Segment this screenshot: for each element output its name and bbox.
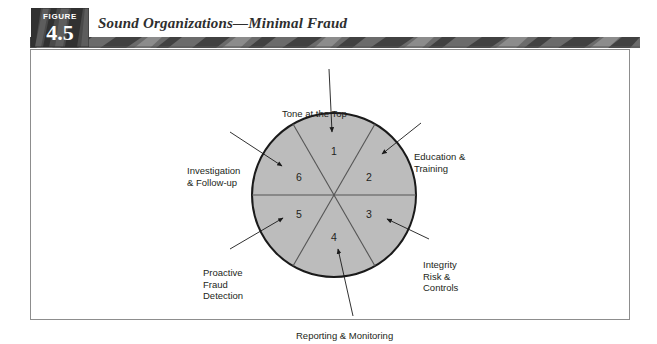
header-decorative-band: [30, 37, 640, 48]
header-band-texture: [30, 37, 640, 48]
page-title: Sound Organizations—Minimal Fraud: [98, 15, 347, 32]
slice-number-4: 4: [331, 231, 337, 243]
pie-slices: [252, 113, 416, 277]
pie-diagram: 1 2 3 4 5 6 Tone at the Top Education & …: [30, 49, 630, 320]
label-tone-at-the-top: Tone at the Top: [282, 108, 347, 120]
pie-diagram-svg: 1 2 3 4 5 6: [30, 49, 630, 320]
figure-tab-number: 4.5: [31, 21, 89, 45]
slice-number-5: 5: [296, 208, 302, 220]
label-education-training: Education & Training: [414, 151, 465, 174]
slice-number-2: 2: [366, 171, 372, 183]
label-reporting-monitoring: Reporting & Monitoring: [296, 330, 393, 342]
label-integrity-risk-controls: Integrity Risk & Controls: [423, 259, 458, 294]
slice-number-6: 6: [296, 171, 302, 183]
slice-number-3: 3: [366, 208, 372, 220]
label-investigation-follow-up: Investigation & Follow-up: [187, 165, 240, 188]
label-proactive-fraud-detection: Proactive Fraud Detection: [203, 267, 243, 302]
figure-container: FIGURE 4.5 Sound Organizations—Minimal F…: [0, 0, 657, 344]
slice-number-1: 1: [331, 145, 337, 157]
figure-number-tab: FIGURE 4.5: [31, 8, 89, 47]
